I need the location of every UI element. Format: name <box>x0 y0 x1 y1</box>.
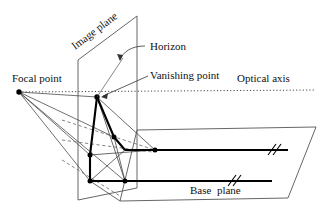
projection-rays-group <box>19 92 125 181</box>
vanishing-point-arrowhead <box>101 93 108 99</box>
image-mid-node-dot <box>112 135 117 140</box>
label-horizon: Horizon <box>150 40 187 52</box>
leader-lines-group <box>97 46 148 99</box>
figure-canvas: Image plane Horizon Vanishing point Opti… <box>0 0 327 213</box>
ray-to-base-corner <box>19 92 90 181</box>
planes-group <box>78 16 316 201</box>
optical-axis-group <box>19 90 316 92</box>
bold-polyline-upper <box>97 97 125 150</box>
horizon-leader-arc <box>120 46 145 60</box>
label-base-plane: Base plane <box>190 184 241 196</box>
perspective-diagram: Image plane Horizon Vanishing point Opti… <box>0 0 327 213</box>
horizon-line <box>97 58 123 97</box>
node-dots-group <box>16 89 157 183</box>
label-image-plane: Image plane <box>69 9 119 51</box>
labels-group: Image plane Horizon Vanishing point Opti… <box>12 9 290 196</box>
scene-lines-group <box>90 97 155 201</box>
label-focal-point: Focal point <box>12 72 62 84</box>
base-front-node-dot <box>123 179 128 184</box>
image-lower-node-dot <box>88 153 93 158</box>
base-corner-node-dot <box>88 179 93 184</box>
image-plane-outline <box>78 16 137 200</box>
line-base-corner-bottom <box>90 181 120 201</box>
base-far-node-dot <box>153 148 158 153</box>
focal-point-dot <box>16 89 21 94</box>
vanishing-point-leader <box>103 76 148 96</box>
ray-to-base-front <box>19 92 125 181</box>
label-optical-axis: Optical axis <box>237 72 290 84</box>
ray-to-image-mid <box>19 92 114 137</box>
ray-to-vanishing-point <box>19 92 97 97</box>
optical-axis-line <box>19 90 316 92</box>
ray-to-image-lower <box>19 92 90 155</box>
label-vanishing-point: Vanishing point <box>150 69 219 81</box>
